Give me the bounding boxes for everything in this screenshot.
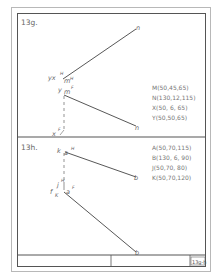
panel-13h: 13h. k a H b j H f K a F b A(50,70,115) … <box>21 143 191 257</box>
label-k-h: k <box>57 147 61 155</box>
coordinate-j: J(50,70, 80) <box>151 164 187 172</box>
label-b-bottom: b <box>135 249 139 257</box>
label-yx-h: yx <box>47 74 56 82</box>
line-ab-front-view <box>64 192 136 252</box>
label-x-f: x <box>51 130 56 138</box>
coordinate-y: Y(50,50,65) <box>151 114 187 121</box>
coordinate-x: X(50, 6, 65) <box>152 104 188 111</box>
label-m-f: m <box>64 88 70 96</box>
coordinate-n: N(130,12,115) <box>152 94 196 101</box>
label-h-sup: H <box>71 146 75 151</box>
label-y-f: y <box>57 86 62 94</box>
sheet-number: 13g-h <box>192 259 207 266</box>
line-mn-front-view <box>64 95 136 126</box>
label-f-sup: F <box>58 127 61 132</box>
label-f: f <box>50 188 54 196</box>
coordinate-m: M(50,45,65) <box>152 84 189 91</box>
coordinate-a: A(50,70,115) <box>152 144 191 151</box>
line-ab-top-view <box>65 152 136 177</box>
panel-title: 13g. <box>21 18 38 27</box>
panel-13g: 13g. yx H m H n y m F x F n M(50,45,65) … <box>21 18 196 138</box>
coordinate-k: K(50,70,120) <box>152 174 191 181</box>
label-a-h: a <box>64 149 68 157</box>
label-f-sup: F <box>72 185 75 190</box>
label-j-h: j <box>56 181 59 189</box>
line-mn-top-view <box>63 29 136 79</box>
label-f-sup: F <box>71 85 74 90</box>
technical-drawing: 13g. yx H m H n y m F x F n M(50,45,65) … <box>0 0 222 278</box>
label-h-sup: H <box>70 76 74 81</box>
label-n-top: n <box>136 24 140 32</box>
label-n-bottom: n <box>135 124 139 132</box>
label-a-f: a <box>66 188 70 196</box>
coordinate-b: B(130, 6, 90) <box>152 154 191 161</box>
label-k-f: K <box>55 192 59 198</box>
panel-title: 13h. <box>21 143 38 152</box>
x-leader <box>60 130 64 135</box>
label-h-sup: H <box>60 71 64 76</box>
label-b-top: b <box>134 174 138 182</box>
label-h-sup: H <box>61 178 65 183</box>
